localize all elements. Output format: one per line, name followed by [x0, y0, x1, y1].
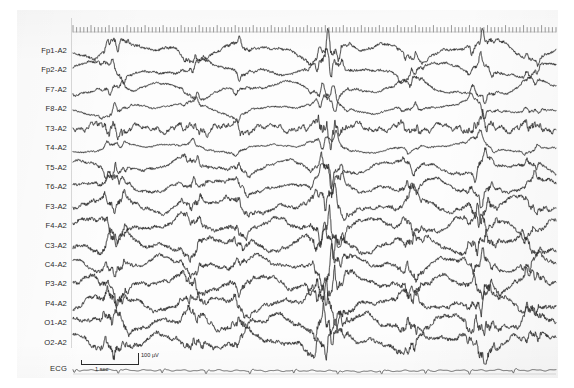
channel-label-ecg: ECG — [17, 364, 67, 373]
channel-label-fp1-a2: Fp1-A2 — [17, 46, 67, 55]
eeg-screenshot: Fp1-A2Fp2-A2F7-A2F8-A2T3-A2T4-A2T5-A2T6-… — [0, 0, 574, 388]
calibration-time-bar — [81, 364, 139, 365]
channel-label-t5-a2: T5-A2 — [17, 162, 67, 171]
eeg-trace-t3-a2 — [73, 109, 556, 150]
channel-label-f3-a2: F3-A2 — [17, 201, 67, 210]
channel-label-c4-a2: C4-A2 — [17, 259, 67, 268]
calibration-amplitude-bar — [138, 353, 139, 365]
calibration-marker: 100 µV 1 sec — [75, 350, 170, 378]
calibration-amplitude-label: 100 µV — [141, 352, 159, 358]
channel-label-column: Fp1-A2Fp2-A2F7-A2F8-A2T3-A2T4-A2T5-A2T6-… — [17, 10, 71, 378]
trace-panel-left-rule — [71, 18, 72, 348]
channel-label-f7-a2: F7-A2 — [17, 84, 67, 93]
eeg-trace-panel[interactable] — [71, 10, 558, 378]
channel-label-p3-a2: P3-A2 — [17, 279, 67, 288]
calibration-tick-left — [81, 360, 82, 365]
channel-label-t4-a2: T4-A2 — [17, 143, 67, 152]
eeg-trace-fp2-a2-halo — [73, 47, 556, 84]
channel-label-o1-a2: O1-A2 — [17, 318, 67, 327]
channel-label-f8-a2: F8-A2 — [17, 104, 67, 113]
calibration-time-label: 1 sec — [95, 366, 108, 372]
eeg-traces-svg — [71, 10, 558, 378]
channel-label-c3-a2: C3-A2 — [17, 240, 67, 249]
channel-label-f4-a2: F4-A2 — [17, 221, 67, 230]
eeg-trace-o1-a2 — [73, 303, 556, 345]
eeg-trace-t5-a2 — [73, 148, 556, 189]
channel-label-p4-a2: P4-A2 — [17, 298, 67, 307]
channel-label-fp2-a2: Fp2-A2 — [17, 65, 67, 74]
channel-label-t6-a2: T6-A2 — [17, 182, 67, 191]
channel-label-t3-a2: T3-A2 — [17, 123, 67, 132]
channel-label-o2-a2: O2-A2 — [17, 337, 67, 346]
eeg-chart-area: Fp1-A2Fp2-A2F7-A2F8-A2T3-A2T4-A2T5-A2T6-… — [17, 10, 558, 378]
